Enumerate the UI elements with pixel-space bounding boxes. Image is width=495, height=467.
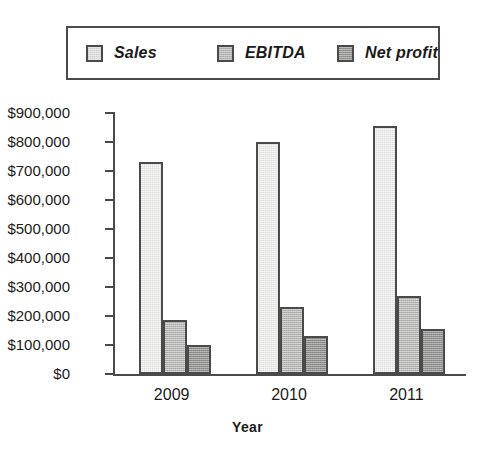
y-axis-tick-label: $900,000 (0, 104, 70, 121)
legend-swatch-net-profit-icon (337, 45, 354, 62)
legend-entry-sales: Sales (86, 44, 217, 62)
legend-entry-net-profit: Net profit (337, 44, 438, 62)
legend-entry-ebitda: EBITDA (217, 44, 337, 62)
y-axis-tick-mark (105, 199, 113, 201)
bar-chart: Sales EBITDA Net profit $0$100,000$200,0… (0, 0, 495, 467)
y-axis-tick-label: $800,000 (0, 133, 70, 150)
y-axis-tick-label: $500,000 (0, 220, 70, 237)
plot-area: $0$100,000$200,000$300,000$400,000$500,0… (113, 113, 465, 374)
bar-ebitda-2011 (397, 296, 421, 374)
y-axis-tick-mark (105, 228, 113, 230)
chart-legend: Sales EBITDA Net profit (66, 26, 440, 80)
bar-net-profit-2011 (421, 329, 445, 374)
y-axis-tick-mark (105, 286, 113, 288)
bar-sales-2009 (139, 162, 163, 374)
y-axis-tick-mark (105, 344, 113, 346)
legend-label-ebitda: EBITDA (245, 44, 306, 62)
y-axis-tick-label: $300,000 (0, 278, 70, 295)
y-axis-tick-mark (105, 257, 113, 259)
legend-label-sales: Sales (114, 44, 157, 62)
y-axis-tick-label: $700,000 (0, 162, 70, 179)
legend-swatch-ebitda-icon (217, 45, 234, 62)
y-axis-tick-label: $600,000 (0, 191, 70, 208)
y-axis-tick-label: $400,000 (0, 249, 70, 266)
x-axis-tick-label: 2010 (229, 386, 349, 404)
bar-net-profit-2010 (304, 336, 328, 374)
legend-label-net-profit: Net profit (365, 44, 438, 62)
x-axis-tick-label: 2011 (346, 386, 466, 404)
y-axis-tick-label: $200,000 (0, 307, 70, 324)
y-axis-tick-mark (105, 373, 113, 375)
y-axis-tick-mark (105, 170, 113, 172)
bar-ebitda-2009 (163, 320, 187, 374)
y-axis-tick-mark (105, 112, 113, 114)
y-axis-tick-mark (105, 141, 113, 143)
bar-ebitda-2010 (280, 307, 304, 374)
y-axis-tick-mark (105, 315, 113, 317)
bar-net-profit-2009 (187, 345, 211, 374)
legend-swatch-sales-icon (86, 45, 103, 62)
bar-sales-2011 (373, 126, 397, 374)
x-axis-title: Year (0, 419, 495, 435)
y-axis-tick-label: $0 (0, 365, 70, 382)
bar-sales-2010 (256, 142, 280, 374)
x-axis-tick-label: 2009 (112, 386, 232, 404)
y-axis-tick-label: $100,000 (0, 336, 70, 353)
legend-row: Sales EBITDA Net profit (68, 28, 438, 78)
x-axis-line (113, 374, 466, 376)
